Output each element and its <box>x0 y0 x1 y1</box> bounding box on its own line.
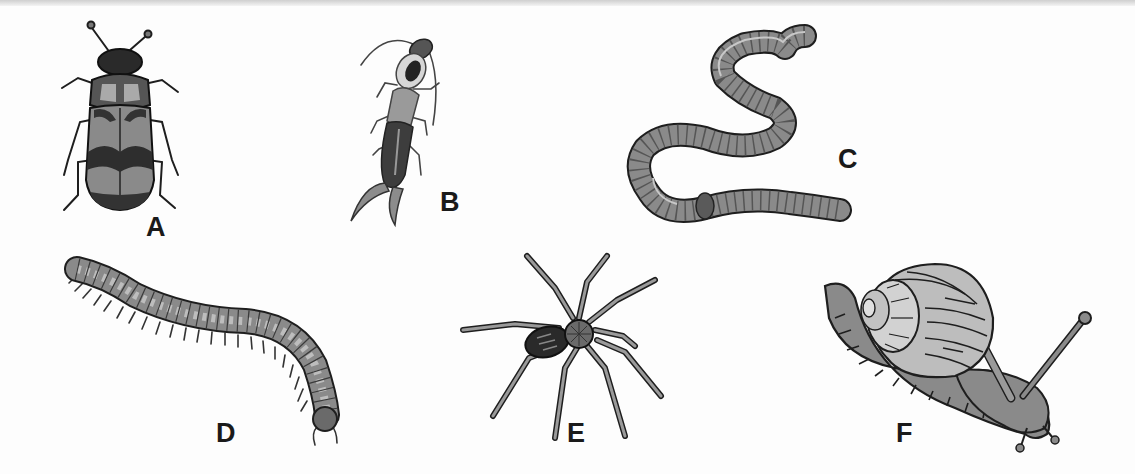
label-d: D <box>216 420 236 447</box>
label-f: F <box>896 420 913 447</box>
label-e: E <box>567 420 585 447</box>
label-b: B <box>440 189 460 216</box>
panel-d-millipede <box>65 255 355 445</box>
panel-f-snail <box>815 258 1105 453</box>
earthworm-icon <box>625 28 855 223</box>
snail-icon <box>815 258 1105 453</box>
label-a: A <box>146 214 166 241</box>
beetle-icon <box>50 10 190 210</box>
page-edge-shadow <box>0 0 1135 6</box>
panel-e-spider <box>455 248 665 448</box>
label-c: C <box>838 146 858 173</box>
panel-a-beetle <box>50 10 190 210</box>
millipede-icon <box>65 255 355 445</box>
panel-c-earthworm <box>625 28 855 223</box>
spider-icon <box>455 248 665 448</box>
